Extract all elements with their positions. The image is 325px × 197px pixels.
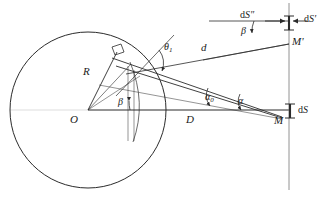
label-angle-alpha0: α0 (205, 92, 214, 104)
label-element-dS-prime: dS′ (304, 14, 316, 24)
diagram-canvas (0, 0, 325, 197)
dS-symbol: S (303, 104, 308, 115)
label-angle-theta1: θ1 (164, 42, 172, 54)
label-angle-beta-upper: β (241, 26, 246, 36)
right-angle-square-icon (112, 44, 124, 55)
label-point-O: O (70, 114, 78, 125)
label-segment-R: R (83, 66, 90, 77)
label-point-M: M (274, 115, 283, 126)
label-segment-d: d (201, 42, 207, 53)
angle-alpha0-subscript: 0 (210, 96, 214, 104)
radius-line-R (88, 52, 117, 110)
label-segment-D: D (186, 114, 194, 125)
dS-dprime-mark: ″ (250, 9, 254, 20)
label-point-M-prime: M' (292, 36, 304, 47)
chord-line-mid (88, 76, 140, 110)
angle-arc-beta-center (129, 101, 130, 110)
beta-ray-to-Mprime (203, 44, 289, 60)
surface-element-arc (130, 62, 139, 142)
dS-prime-mark: ′ (314, 13, 316, 24)
label-element-dS: dS (298, 105, 308, 115)
geometry-figure: O M M' R D d θ1 α0 α β β dS dS′ dS″ (0, 0, 325, 197)
angle-arc-beta-upper (252, 21, 254, 33)
label-element-dS-double-prime: dS″ (240, 10, 254, 20)
label-angle-beta-center: β (118, 97, 123, 107)
label-angle-alpha: α (238, 96, 243, 106)
angle-theta1-subscript: 1 (169, 46, 173, 54)
